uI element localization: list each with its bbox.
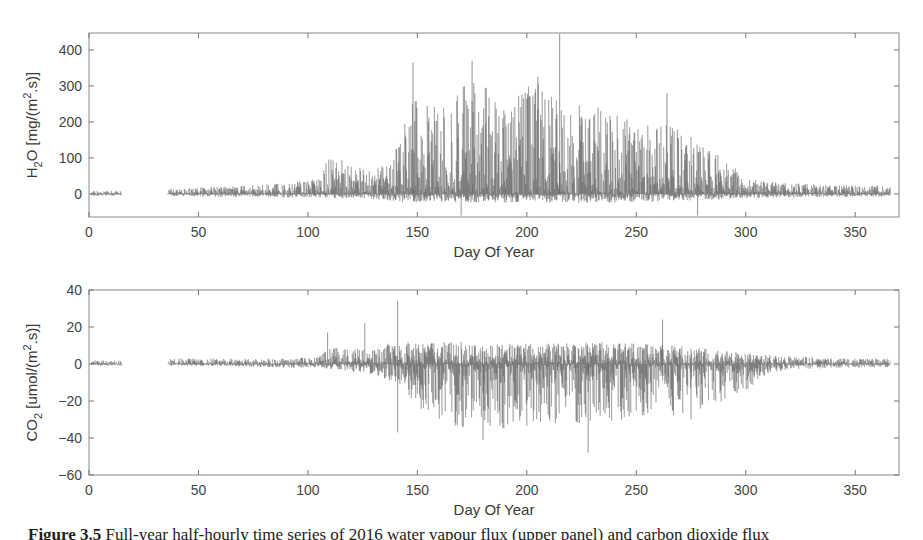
x-tick-label: 300: [734, 224, 758, 240]
figure-caption-label: Figure 3.5: [28, 525, 101, 540]
x-tick-label: 150: [406, 482, 430, 498]
y-axis-label: H2O [mg/(m2.s)]: [21, 72, 44, 178]
data-series: [91, 34, 890, 216]
y-tick-label: 20: [66, 319, 82, 335]
x-tick-label: 250: [625, 482, 649, 498]
data-series: [91, 301, 890, 453]
y-tick-label: −20: [58, 393, 82, 409]
y-axis-label: CO2 [umol/(m2.s)]: [21, 323, 44, 441]
x-tick-label: 50: [191, 224, 207, 240]
x-tick-label: 100: [296, 482, 320, 498]
h2o-flux-chart: 0501001502002503003500100200300400Day Of…: [0, 0, 923, 270]
h2o-flux-plot: 0501001502002503003500100200300400Day Of…: [0, 0, 923, 270]
x-tick-label: 200: [515, 482, 539, 498]
y-tick-label: 200: [59, 114, 83, 130]
figure-caption-text: Full-year half-hourly time series of 201…: [101, 525, 769, 540]
x-tick-label: 350: [844, 224, 868, 240]
x-tick-label: 0: [85, 224, 93, 240]
figure-caption: Figure 3.5 Full-year half-hourly time se…: [28, 524, 923, 540]
x-tick-label: 250: [625, 224, 649, 240]
y-tick-label: 0: [74, 356, 82, 372]
y-tick-label: 400: [59, 42, 83, 58]
axes-box: [89, 290, 899, 475]
co2-flux-chart: 050100150200250300350−60−40−2002040Day O…: [0, 258, 923, 520]
co2-flux-plot: 050100150200250300350−60−40−2002040Day O…: [0, 258, 923, 520]
y-tick-label: 40: [66, 282, 82, 298]
y-tick-label: 0: [74, 186, 82, 202]
y-tick-label: 300: [59, 78, 83, 94]
x-tick-label: 200: [515, 224, 539, 240]
x-tick-label: 150: [406, 224, 430, 240]
y-tick-label: −40: [58, 430, 82, 446]
x-tick-label: 100: [296, 224, 320, 240]
x-tick-label: 350: [844, 482, 868, 498]
x-tick-label: 300: [734, 482, 758, 498]
y-tick-label: 100: [59, 150, 83, 166]
x-tick-label: 50: [191, 482, 207, 498]
x-tick-label: 0: [85, 482, 93, 498]
x-axis-label: Day Of Year: [454, 501, 535, 518]
y-tick-label: −60: [58, 467, 82, 483]
